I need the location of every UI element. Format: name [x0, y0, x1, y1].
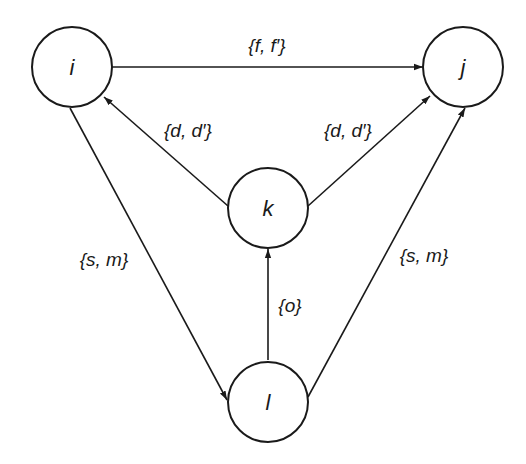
node-j: j [423, 27, 503, 107]
edge-label-l-j: {s, m} [400, 245, 449, 266]
edge-label-k-i: {d, d′} [164, 120, 213, 141]
node-l: l [228, 362, 308, 442]
edge-k-to-j [308, 96, 430, 206]
node-i: i [32, 27, 112, 107]
graph-diagram: i j k l {f, f′} {d, d′} {d, d′} {s, m} {… [0, 0, 526, 464]
node-k-label: k [263, 196, 275, 221]
edge-label-k-j: {d, d′} [324, 120, 373, 141]
edge-label-i-j: {f, f′} [248, 35, 286, 56]
node-k: k [228, 168, 308, 248]
edge-label-i-l: {s, m} [80, 249, 129, 270]
edge-k-to-i [104, 97, 228, 206]
edge-label-l-k: {o} [278, 295, 302, 316]
